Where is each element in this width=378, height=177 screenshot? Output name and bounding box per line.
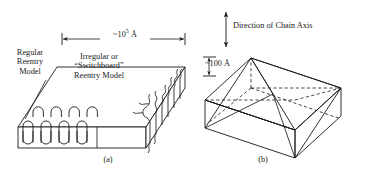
length-exponent: 5 bbox=[126, 28, 129, 34]
caption-panel-a: (a) bbox=[88, 155, 128, 164]
length-prefix: ~10 bbox=[113, 30, 126, 39]
label-lateral-dimension: ~105 Å bbox=[90, 28, 160, 39]
length-unit: Å bbox=[131, 30, 137, 39]
label-lamellar-thickness: ~100 Å bbox=[205, 59, 249, 68]
figure-root: Regular Reentry Model Irregular or “Swit… bbox=[0, 0, 378, 177]
label-regular-reentry-model: Regular Reentry Model bbox=[4, 48, 56, 76]
pyramid-crystal-b bbox=[205, 58, 341, 158]
label-switchboard-reentry-model: Irregular or “Switchboard” Reentry Model bbox=[56, 52, 142, 80]
caption-panel-b: (b) bbox=[243, 155, 283, 164]
label-direction-of-chain-axis: Direction of Chain Axis bbox=[233, 21, 373, 30]
